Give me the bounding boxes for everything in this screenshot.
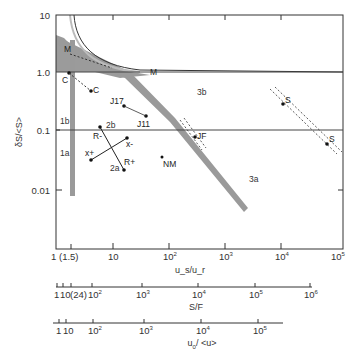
chart-canvas: 10 1.0 0.1 0.01 δS/<S> 1 (1.5) 10 102 10… [0,0,357,362]
y-tick-label: 0.01 [32,185,51,196]
x-axis-title: u_s/u_r [175,265,205,275]
sf-tick-label: 102 [88,289,103,300]
region-3a: 3a [249,174,259,184]
y-tick-label: 10 [39,10,50,21]
u0-tick-label: 103 [139,325,154,336]
point-rplus [122,168,126,172]
point-label-j11: J11 [137,119,150,129]
point-label-rminus: R- [93,131,102,141]
y-axis-title: δS/<S> [14,117,24,147]
region-1a: 1a [60,148,70,158]
sf-tick-label: 104 [192,289,207,300]
u0-axis-title: u0/ <u> [188,338,217,350]
point-label-jf: JF [197,131,206,141]
point-label-j17: J17 [110,96,124,106]
u0-tick-label: 104 [196,325,211,336]
x-tick-label: 103 [219,251,234,262]
point-label-xminus: x- [126,139,133,149]
sf-tick-label: 105 [249,289,264,300]
x-tick-label: 105 [331,251,346,262]
point-label-m1: M [64,44,71,54]
boundary-curve [74,15,343,72]
x-line [91,138,127,160]
point-label-s2: S [329,134,335,144]
u0-tick-label: 102 [88,325,103,336]
point-xplus [89,158,93,162]
region-1b: 1b [60,116,70,126]
vertical-band [70,40,75,196]
point-label-c1b: C [93,85,99,95]
sf-tick-label: (24) [70,289,87,300]
x-tick-label: 1 [51,251,56,262]
y-tick-label: 0.1 [37,125,50,136]
sf-tick-label: 106 [304,289,319,300]
x-tick-label: (1.5) [59,251,79,262]
u0-tick-label: 10 [63,325,74,336]
u0-tick-label: 1 [56,325,61,336]
point-label-m2: M [150,67,157,77]
x-tick-label: 102 [163,251,178,262]
j-link [124,106,146,116]
region-2a: 2a [110,163,120,173]
sf-tick-label: 103 [136,289,151,300]
point-label-nm: NM [163,159,176,169]
point-label-xplus: x+ [85,148,94,158]
x-tick-label: 10 [108,251,119,262]
u0-tick-label: 105 [253,325,268,336]
point-label-s1: S [285,95,291,105]
point-label-rplus: R+ [124,157,135,167]
x-tick-label: 104 [275,251,290,262]
sf-axis-ticks [57,283,310,287]
region-2b: 2b [106,120,116,130]
sf-tick-label: 10 [60,289,71,300]
sf-axis-title: S/F [189,302,204,312]
u0-axis-ticks [59,319,258,323]
sf-tick-label: 1 [54,289,59,300]
region-3b: 3b [197,87,207,97]
point-rminus [98,125,102,129]
point-label-c1a: C [62,75,68,85]
y-tick-label: 1.0 [37,67,50,78]
